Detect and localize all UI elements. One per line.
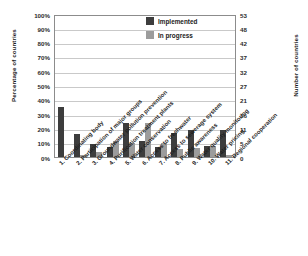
bar-groups xyxy=(55,16,235,157)
y-tick-label-right: 21 xyxy=(240,97,264,104)
y-tick-label-right: 42 xyxy=(240,40,264,47)
y-tick-label-left: 30% xyxy=(2,112,50,119)
y-tick-label-right: 37 xyxy=(240,54,264,61)
plot-area xyxy=(54,15,236,158)
bar-implemented[interactable] xyxy=(58,107,64,157)
y-tick-label-left: 70% xyxy=(2,54,50,61)
chart-figure: Percentage of countries Number of countr… xyxy=(0,0,308,256)
bar-group xyxy=(56,16,72,157)
bar-in-progress[interactable] xyxy=(161,143,167,157)
legend-label-implemented: Implemented xyxy=(158,18,197,25)
bar-in-progress[interactable] xyxy=(80,155,86,157)
bar-in-progress[interactable] xyxy=(113,141,119,157)
y-tick-label-left: 50% xyxy=(2,83,50,90)
y-tick-label-right: 53 xyxy=(240,12,264,19)
bar-in-progress[interactable] xyxy=(194,148,200,157)
bar-group xyxy=(121,16,137,157)
y-tick-label-right: 27 xyxy=(240,83,264,90)
y-tick-label-right: 5 xyxy=(240,140,264,147)
bar-implemented[interactable] xyxy=(74,134,80,157)
bar-group xyxy=(72,16,88,157)
bar-group xyxy=(88,16,104,157)
y-tick-label-right: 0 xyxy=(240,155,264,162)
bar-in-progress[interactable] xyxy=(96,152,102,157)
y-tick-label-right: 11 xyxy=(240,126,264,133)
y-tick-label-left: 0% xyxy=(2,155,50,162)
y-axis-title-left: Percentage of countries xyxy=(10,23,17,109)
y-tick-label-right: 32 xyxy=(240,69,264,76)
legend-item-in-progress[interactable]: In progress xyxy=(146,31,197,39)
y-tick-label-left: 90% xyxy=(2,26,50,33)
bar-group xyxy=(218,16,234,157)
bar-in-progress[interactable] xyxy=(145,123,151,157)
y-tick-label-left: 10% xyxy=(2,140,50,147)
y-tick-label-right: 16 xyxy=(240,112,264,119)
bar-in-progress[interactable] xyxy=(210,146,216,157)
y-axis-title-right: Number of countries xyxy=(292,23,299,109)
bar-in-progress[interactable] xyxy=(129,143,135,157)
y-tick-label-left: 40% xyxy=(2,97,50,104)
y-tick-label-right: 48 xyxy=(240,26,264,33)
bar-group xyxy=(202,16,218,157)
y-tick-label-left: 80% xyxy=(2,40,50,47)
y-tick-label-left: 60% xyxy=(2,69,50,76)
y-tick-label-left: 20% xyxy=(2,126,50,133)
y-tick-label-left: 100% xyxy=(2,12,50,19)
legend-label-in-progress: In progress xyxy=(158,32,193,39)
bar-group xyxy=(105,16,121,157)
legend-item-implemented[interactable]: Implemented xyxy=(146,17,197,25)
bar-in-progress[interactable] xyxy=(226,155,232,157)
chart-legend: Implemented In progress xyxy=(146,17,197,39)
legend-swatch-implemented xyxy=(146,17,154,25)
legend-swatch-in-progress xyxy=(146,31,154,39)
bar-in-progress[interactable] xyxy=(177,149,183,157)
bar-implemented[interactable] xyxy=(220,130,226,157)
